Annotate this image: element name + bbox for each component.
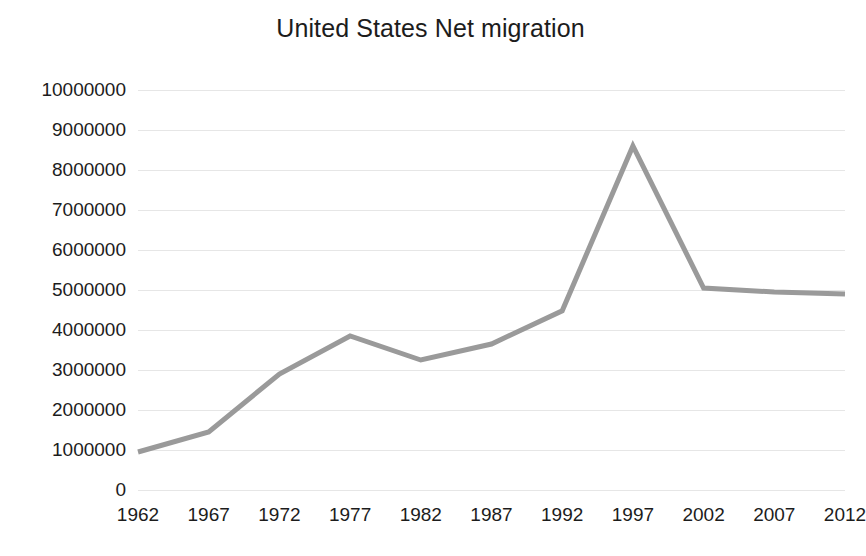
y-axis-tick-label: 9000000 [0,120,126,139]
y-axis-tick-label: 8000000 [0,160,126,179]
x-axis-tick-label: 1987 [470,504,512,526]
x-axis-tick-label: 1982 [400,504,442,526]
y-axis-tick-label: 2000000 [0,400,126,419]
y-axis-tick-label: 6000000 [0,240,126,259]
net-migration-line [138,146,845,452]
y-axis-tick-label: 5000000 [0,280,126,299]
y-axis-tick-label: 10000000 [0,80,126,99]
x-axis-tick-label: 1972 [258,504,300,526]
x-axis-tick-label: 2007 [753,504,795,526]
y-axis-tick-label: 1000000 [0,440,126,459]
x-axis-tick-label: 1992 [541,504,583,526]
line-series [138,90,845,490]
chart-title: United States Net migration [0,14,861,43]
x-axis-tick-label: 1967 [188,504,230,526]
y-axis-tick-label: 4000000 [0,320,126,339]
y-axis-tick-label: 7000000 [0,200,126,219]
y-axis-tick-label: 3000000 [0,360,126,379]
x-axis-tick-label: 1997 [612,504,654,526]
x-axis-tick-label: 1977 [329,504,371,526]
x-axis-tick-label: 2002 [682,504,724,526]
gridline [138,490,845,491]
plot-area [138,90,845,490]
x-axis-tick-label: 1962 [117,504,159,526]
y-axis-tick-labels: 1000000090000008000000700000060000005000… [0,90,126,490]
x-axis-tick-label: 2012 [824,504,866,526]
x-axis-tick-labels: 1962196719721977198219871992199720022007… [138,504,845,530]
y-axis-tick-label: 0 [0,480,126,499]
